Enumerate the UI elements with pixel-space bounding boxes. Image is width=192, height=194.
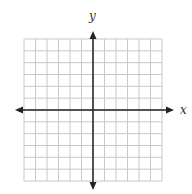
y-axis-top-arrow-icon: [90, 31, 97, 39]
y-axis-bottom-arrow-icon: [90, 182, 97, 190]
coordinate-plane: x y: [0, 0, 192, 194]
x-axis-label: x: [180, 103, 187, 117]
x-axis-right-arrow-icon: [166, 107, 174, 114]
x-axis-left-arrow-icon: [15, 107, 23, 114]
y-axis-label: y: [88, 9, 96, 23]
